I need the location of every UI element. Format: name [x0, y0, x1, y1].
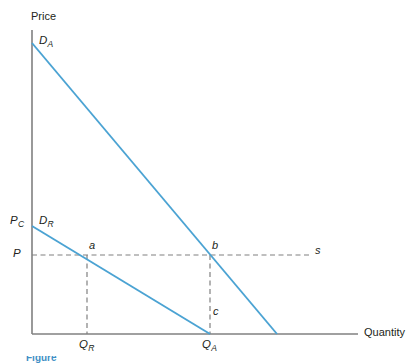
figure-caption-text: Figure — [26, 356, 57, 363]
price-label-p-c-base: P — [10, 214, 18, 226]
demand-curve-affluent — [32, 43, 277, 334]
supply-line-label-s: s — [315, 245, 321, 256]
price-label-p-c: PC — [10, 215, 24, 227]
curve-label-d-r-sub: R — [48, 219, 54, 229]
demand-curve-rest — [32, 226, 210, 334]
curve-label-d-a-base: D — [39, 34, 47, 46]
figure-root: Price Quantity DA DR PC P QR QA a b c s … — [0, 0, 419, 363]
figure-caption-strip: Figure — [0, 356, 419, 363]
quantity-label-q-a-base: Q — [202, 338, 211, 350]
y-axis-title: Price — [31, 11, 56, 22]
quantity-label-q-a-sub: A — [211, 343, 217, 353]
point-label-b: b — [212, 240, 218, 251]
curve-label-d-r-base: D — [39, 214, 47, 226]
x-axis-title: Quantity — [364, 327, 405, 338]
price-label-p: P — [13, 248, 21, 260]
point-label-c: c — [213, 306, 219, 317]
quantity-label-q-a: QA — [202, 339, 217, 351]
quantity-label-q-r-sub: R — [88, 343, 94, 353]
curve-label-d-r: DR — [39, 215, 53, 227]
curve-label-d-a-sub: A — [48, 39, 54, 49]
chart-canvas — [0, 0, 419, 363]
point-label-a: a — [89, 240, 95, 251]
curve-label-d-a: DA — [39, 35, 53, 47]
quantity-label-q-r: QR — [79, 339, 94, 351]
quantity-label-q-r-base: Q — [79, 338, 88, 350]
price-label-p-c-sub: C — [18, 219, 24, 229]
